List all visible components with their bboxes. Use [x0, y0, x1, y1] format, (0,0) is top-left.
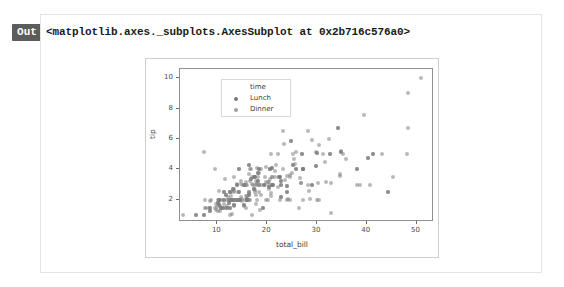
scatter-point [243, 183, 247, 187]
scatter-point [321, 152, 325, 156]
x-axis-label: total_bill [146, 240, 438, 249]
scatter-point [269, 194, 273, 198]
scatter-point [276, 152, 280, 156]
scatter-point [213, 167, 217, 171]
scatter-point [228, 213, 232, 217]
scatter-point [366, 156, 370, 160]
scatter-point [244, 206, 248, 210]
x-tick-mark [316, 221, 317, 224]
scatter-point [235, 183, 239, 187]
legend-entry-label: Dinner [250, 105, 273, 113]
scatter-point [247, 163, 251, 167]
scatter-point [181, 213, 185, 217]
scatter-point [281, 129, 285, 133]
legend-entry: Lunch [222, 93, 290, 104]
x-tick-mark [416, 221, 417, 224]
scatter-point [208, 209, 212, 213]
scatter-point [217, 189, 221, 193]
scatter-point [194, 213, 198, 217]
scatter-point [259, 167, 263, 171]
scatter-point [307, 189, 311, 193]
scatter-point [243, 198, 247, 202]
scatter-point [269, 152, 273, 156]
y-tick-mark [176, 108, 179, 109]
scatter-point [254, 202, 258, 206]
scatter-point [253, 183, 257, 187]
scatter-point [317, 143, 321, 147]
scatter-point [259, 193, 263, 197]
scatter-point [258, 208, 262, 212]
scatter-point [324, 180, 328, 184]
notebook-output-cell: Out <matplotlib.axes._subplots.AxesSubpl… [0, 0, 564, 287]
scatter-point [264, 198, 268, 202]
y-tick-label: 2 [153, 195, 173, 203]
scatter-point [344, 157, 348, 161]
scatter-point [294, 167, 298, 171]
y-tick-mark [176, 199, 179, 200]
scatter-point [419, 76, 423, 80]
legend-entry-label: Lunch [250, 94, 271, 102]
scatter-point [285, 190, 289, 194]
scatter-point [329, 181, 333, 185]
scatter-point [259, 183, 263, 187]
scatter-point [274, 163, 278, 167]
scatter-point [358, 183, 362, 187]
scatter-point [232, 204, 236, 208]
scatter-point [292, 157, 296, 161]
y-tick-label: 10 [153, 73, 173, 81]
scatter-point [301, 167, 305, 171]
y-axis-label: tip [148, 129, 157, 139]
scatter-point [263, 175, 267, 179]
scatter-point [310, 138, 314, 142]
x-tick-label: 10 [206, 226, 226, 234]
x-tick-mark [266, 221, 267, 224]
scatter-point [314, 164, 318, 168]
x-tick-label: 20 [256, 226, 276, 234]
scatter-point [380, 152, 384, 156]
scatter-point [281, 167, 285, 171]
y-tick-mark [176, 77, 179, 78]
scatter-point [328, 152, 332, 156]
legend-entry: Dinner [222, 104, 290, 115]
scatter-point [236, 190, 240, 194]
scatter-point [256, 175, 260, 179]
scatter-point [308, 197, 312, 201]
output-prompt-badge: Out [12, 24, 42, 41]
scatter-point [232, 187, 236, 191]
x-tick-mark [216, 221, 217, 224]
matplotlib-figure: time LunchDinner 2468101020304050 total_… [145, 58, 439, 258]
scatter-point [216, 198, 220, 202]
scatter-point [285, 184, 289, 188]
plot-legend: time LunchDinner [221, 79, 291, 117]
scatter-point [339, 150, 343, 154]
scatter-point [406, 91, 410, 95]
scatter-point [250, 213, 254, 217]
scatter-point [237, 167, 241, 171]
x-tick-label: 40 [356, 226, 376, 234]
y-tick-label: 8 [153, 104, 173, 112]
legend-marker-icon [234, 108, 238, 112]
scatter-point [362, 113, 366, 117]
scatter-point [276, 185, 280, 189]
y-tick-mark [176, 168, 179, 169]
legend-title: time [250, 83, 266, 91]
scatter-point [336, 126, 340, 130]
scatter-point [223, 177, 227, 181]
scatter-point [297, 206, 301, 210]
scatter-point [306, 183, 310, 187]
y-tick-mark [176, 138, 179, 139]
scatter-point [310, 183, 314, 187]
scatter-point [203, 198, 207, 202]
scatter-point [238, 198, 242, 202]
scatter-point [323, 160, 327, 164]
scatter-point [329, 211, 333, 215]
scatter-point [301, 198, 305, 202]
scatter-point [252, 187, 256, 191]
scatter-point [300, 152, 304, 156]
scatter-point [406, 126, 410, 130]
scatter-point [223, 206, 227, 210]
scatter-point [273, 169, 277, 173]
scatter-point [299, 181, 303, 185]
scatter-point [327, 137, 331, 141]
scatter-plot-axes: time LunchDinner [179, 68, 433, 221]
